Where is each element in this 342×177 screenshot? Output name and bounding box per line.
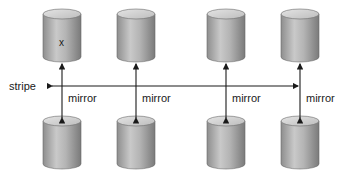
mirror-label-4: mirror [306, 93, 335, 104]
mirror-arrows [62, 64, 300, 118]
disk-3 [207, 9, 245, 62]
disk-1-mirror [43, 116, 81, 169]
disk-2-mirror [117, 116, 155, 169]
stripe-label: stripe [9, 81, 36, 92]
mirror-label-1: mirror [68, 93, 97, 104]
mirror-label-3: mirror [232, 93, 261, 104]
data-marker: x [59, 38, 64, 48]
disk-4-mirror [281, 116, 319, 169]
mirror-label-2: mirror [142, 93, 171, 104]
raid-diagram [0, 0, 342, 177]
disk-3-mirror [207, 116, 245, 169]
disk-4 [281, 9, 319, 62]
disk-1 [43, 9, 81, 62]
disk-2 [117, 9, 155, 62]
